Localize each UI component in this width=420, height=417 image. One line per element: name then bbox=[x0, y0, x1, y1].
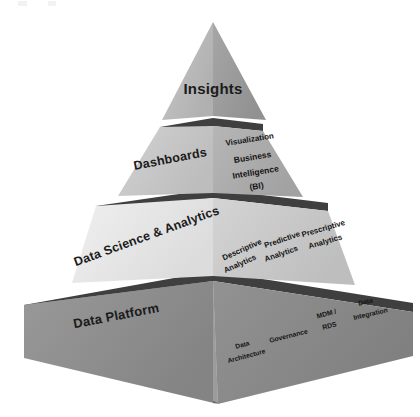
tier-insights[interactable] bbox=[162, 22, 266, 120]
tier-insights-right-face bbox=[213, 22, 266, 120]
scan-artifact-left bbox=[18, 1, 27, 6]
label-insights: Insights bbox=[183, 80, 242, 97]
tier-data-science-analytics[interactable] bbox=[72, 189, 355, 285]
scan-artifact-right bbox=[48, 1, 56, 6]
pyramid-diagram: Insights Dashboards Visualization Busine… bbox=[0, 0, 420, 417]
pyramid-svg: Insights Dashboards Visualization Busine… bbox=[0, 0, 420, 417]
tier-data-platform[interactable] bbox=[24, 271, 413, 404]
tier-data-platform-left-face-fill bbox=[24, 281, 218, 404]
tier-insights-left-face bbox=[162, 22, 213, 120]
